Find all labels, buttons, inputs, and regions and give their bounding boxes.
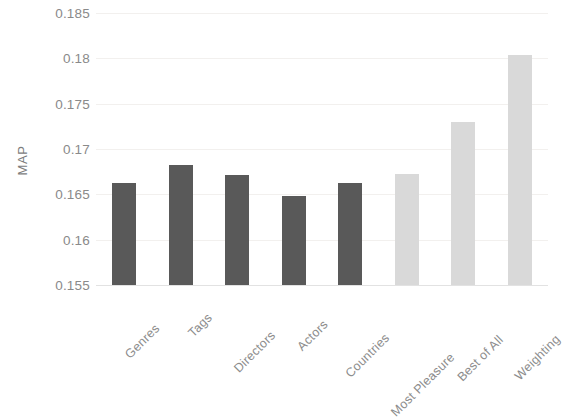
x-axis-tick-label: Best of All <box>455 333 507 385</box>
y-axis-tick-label: 0.175 <box>42 96 90 111</box>
y-axis-tick-label: 0.16 <box>42 232 90 247</box>
y-axis-tick-label: 0.17 <box>42 142 90 157</box>
x-axis-tick-label: Directors <box>231 328 278 375</box>
bar-countries <box>338 183 362 285</box>
bars-layer <box>96 0 548 285</box>
x-axis-tick-label: Tags <box>185 311 214 340</box>
bar-tags <box>169 165 193 285</box>
x-axis-tick-label: Countries <box>343 331 393 381</box>
y-axis-tick-labels: 0.1550.160.1650.170.1750.180.185 <box>40 0 90 384</box>
y-axis-tick-label: 0.185 <box>42 6 90 21</box>
x-axis-tick-label: Genres <box>123 321 163 361</box>
x-axis-tick-label: Weighting <box>512 332 563 383</box>
bar-directors <box>225 175 249 285</box>
x-axis-tick-labels: GenresTagsDirectorsActorsCountriesMost P… <box>96 285 548 384</box>
x-axis-tick-label: Most Pleasure <box>388 350 457 419</box>
y-axis-tick-label: 0.165 <box>42 187 90 202</box>
y-axis-tick-label: 0.18 <box>42 51 90 66</box>
x-axis-tick-label: Actors <box>294 317 330 353</box>
bar-genres <box>112 183 136 285</box>
bar-most-pleasure <box>395 174 419 285</box>
bar-weighting <box>508 55 532 285</box>
bar-actors <box>282 196 306 285</box>
bar-best-of-all <box>451 122 475 285</box>
y-axis-title-text: MAP <box>15 145 30 175</box>
y-axis-tick-label: 0.155 <box>42 278 90 293</box>
